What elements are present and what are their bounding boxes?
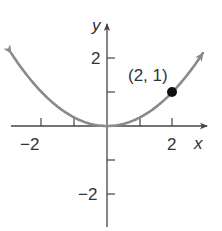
x-axis-label: x <box>193 134 203 153</box>
parabola-graph: y x −2 2 2 −2 (2, 1) <box>0 0 222 231</box>
x-tick-label-2: 2 <box>167 135 176 154</box>
point-2-1 <box>167 87 177 97</box>
y-tick-label-2: 2 <box>91 49 100 68</box>
point-label: (2, 1) <box>128 66 168 85</box>
y-tick-label-neg2: −2 <box>78 185 97 204</box>
x-tick-label-neg2: −2 <box>20 135 39 154</box>
y-axis-label: y <box>91 16 102 35</box>
